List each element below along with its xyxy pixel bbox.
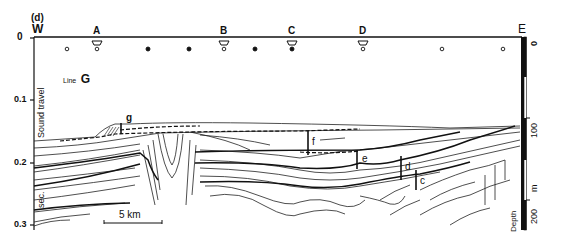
marker-label-f: f (312, 136, 315, 147)
scale-bar-line (104, 220, 162, 224)
line-label-letter: G (81, 72, 90, 86)
marker-label-e: e (362, 153, 368, 164)
time-tick-0: 0 (17, 31, 23, 42)
line-label: Line G (63, 69, 90, 87)
west-label: W (32, 22, 43, 36)
station-label-c: C (288, 25, 295, 36)
seismic-profile-drawing (0, 0, 569, 241)
time-tick-0-1: 0.1 (14, 94, 27, 104)
time-axis-title: Sound travel (36, 87, 46, 138)
depth-axis-title: Depth (509, 211, 518, 232)
east-label: E (518, 22, 526, 36)
station-label-a: A (93, 25, 100, 36)
station-label-b: B (220, 25, 227, 36)
time-axis-unit: sec. (36, 191, 46, 208)
marker-label-c: c (420, 175, 425, 186)
line-label-prefix: Line (63, 77, 76, 84)
time-tick-0-3: 0.3 (14, 219, 27, 229)
marker-label-d: d (405, 161, 411, 172)
depth-axis-unit: m (529, 185, 539, 193)
depth-tick-100: 100 (529, 123, 539, 138)
station-label-d: D (359, 25, 366, 36)
depth-tick-0: 0 (529, 41, 539, 46)
depth-tick-200: 200 (529, 209, 539, 224)
time-tick-0-2: 0.2 (14, 157, 27, 167)
marker-label-g: g (126, 112, 132, 123)
scale-bar-label: 5 km (119, 209, 141, 220)
